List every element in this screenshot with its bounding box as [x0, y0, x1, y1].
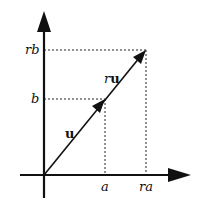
vector-ru-arrowhead-icon — [133, 50, 146, 64]
y-tick-rb: rb — [25, 42, 40, 57]
vector-u-arrowhead-icon — [92, 99, 105, 113]
x-tick-ra: ra — [139, 179, 153, 194]
y-tick-b: b — [31, 91, 39, 106]
vector-ru-label: ru — [104, 71, 120, 86]
x-axis-arrow-icon — [168, 168, 191, 182]
vector-u-label: u — [65, 126, 74, 141]
vector-diagram: rb b a ra u ru — [0, 0, 224, 210]
x-tick-a: a — [101, 179, 109, 194]
y-axis-arrow-icon — [37, 11, 51, 32]
vector-ru — [44, 57, 140, 175]
